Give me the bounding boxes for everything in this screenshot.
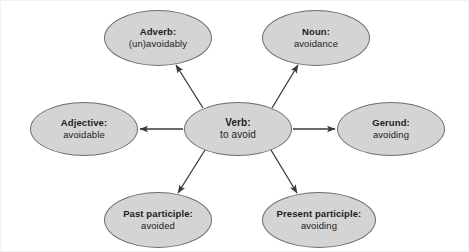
node-gerund[interactable]: Gerund: avoiding xyxy=(337,102,445,156)
node-noun-title: Noun: xyxy=(302,26,330,38)
arrow-verb-to-past-participle xyxy=(178,150,205,193)
node-verb-title: Verb: xyxy=(225,117,251,130)
node-past-participle-value: avoided xyxy=(141,220,175,232)
node-present-participle-value: avoiding xyxy=(301,220,337,232)
node-gerund-title: Gerund: xyxy=(372,117,410,129)
node-adverb-title: Adverb: xyxy=(140,26,177,38)
node-adjective[interactable]: Adjective: avoidable xyxy=(30,102,138,156)
node-gerund-value: avoiding xyxy=(373,129,409,141)
node-noun-value: avoidance xyxy=(294,38,338,50)
arrow-verb-to-present-participle xyxy=(271,150,297,193)
node-past-participle-title: Past participle: xyxy=(123,208,193,220)
node-adverb-value: (un)avoidably xyxy=(129,38,187,50)
word-family-diagram: Adverb: (un)avoidably Noun: avoidance Ad… xyxy=(0,0,469,252)
node-adverb[interactable]: Adverb: (un)avoidably xyxy=(104,10,212,66)
arrow-verb-to-noun xyxy=(272,65,298,108)
node-adjective-value: avoidable xyxy=(63,129,105,141)
node-verb-value: to avoid xyxy=(220,129,256,142)
node-present-participle[interactable]: Present participle: avoiding xyxy=(262,192,376,248)
node-adjective-title: Adjective: xyxy=(61,117,107,129)
node-noun[interactable]: Noun: avoidance xyxy=(262,10,370,66)
node-past-participle[interactable]: Past participle: avoided xyxy=(104,192,212,248)
node-present-participle-title: Present participle: xyxy=(277,208,362,220)
arrow-verb-to-adverb xyxy=(176,65,203,108)
node-verb-center[interactable]: Verb: to avoid xyxy=(184,102,292,156)
